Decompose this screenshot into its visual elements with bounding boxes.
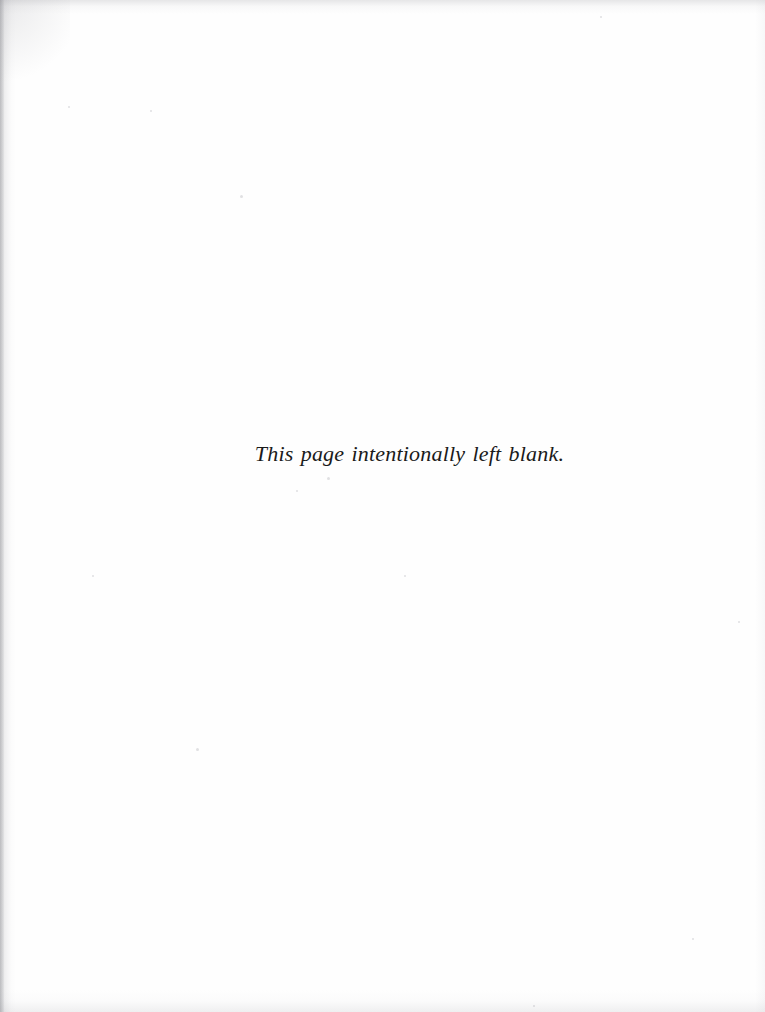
scan-dust-speck xyxy=(533,1005,535,1007)
scan-dust-speck xyxy=(150,110,152,112)
scan-dust-speck xyxy=(404,575,406,577)
scan-edge-shadow-left xyxy=(0,0,16,1012)
scan-dust-speck xyxy=(738,621,740,623)
scan-dust-speck xyxy=(327,477,330,480)
scan-dust-speck xyxy=(296,490,298,492)
scan-edge-shadow-right xyxy=(755,0,765,1012)
scan-dust-speck xyxy=(196,748,199,751)
scan-dust-speck xyxy=(68,106,70,108)
scan-edge-shadow-top xyxy=(0,0,765,14)
scan-edge-shadow-bottom xyxy=(0,990,765,1012)
scan-dust-speck xyxy=(240,195,243,198)
scan-dust-speck xyxy=(600,16,602,18)
page-intentionally-blank-notice: This page intentionally left blank. xyxy=(0,440,765,468)
scan-gutter-shadow xyxy=(0,0,4,1012)
scanned-page: This page intentionally left blank. xyxy=(0,0,765,1012)
scan-corner-shadow xyxy=(0,0,70,90)
scan-dust-speck xyxy=(92,575,94,577)
scan-dust-speck xyxy=(692,938,694,940)
